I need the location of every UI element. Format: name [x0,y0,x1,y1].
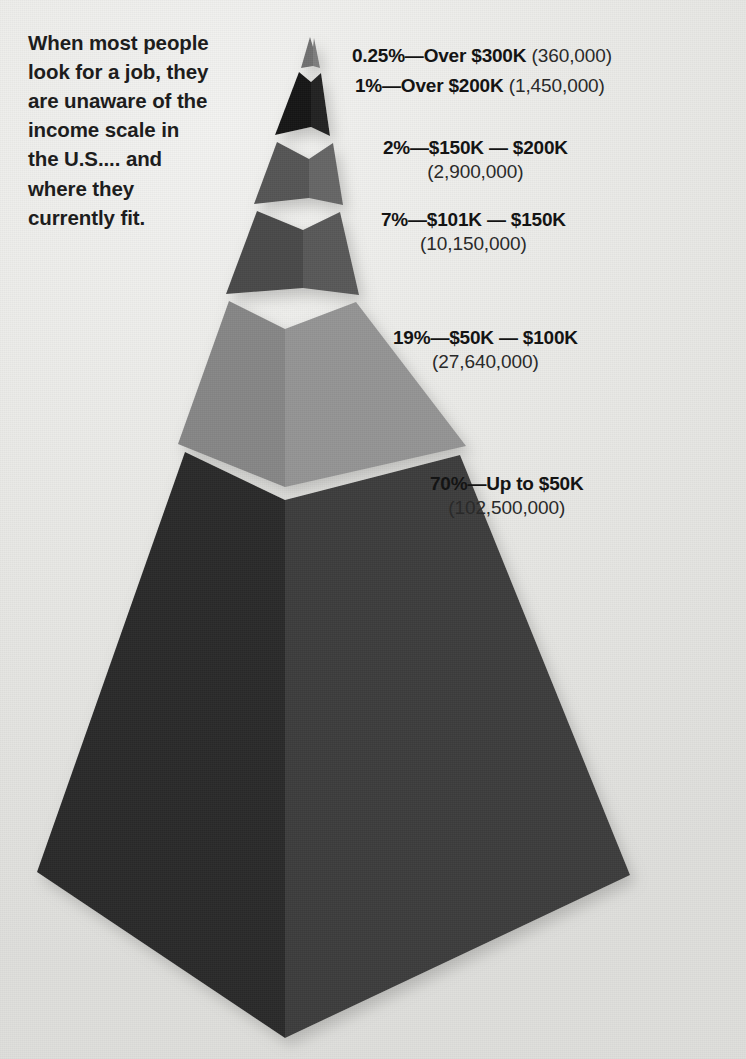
tier-label-over-200k-count: (1,450,000) [509,75,605,96]
pyramid-tier-025[interactable] [301,37,320,68]
pyramid-tier-2-face-right [309,143,343,205]
tier-label-50k-100k-lead: 19%—$50K — $100K [393,327,578,348]
pyramid-tier-025-face-right [313,38,320,68]
pyramid-tier-1[interactable] [275,72,330,136]
tier-label-101k-150k-count: (10,150,000) [381,232,566,255]
tier-label-50k-100k-count: (27,640,000) [393,350,578,373]
tier-label-up-to-50k-count: (102,500,000) [430,496,583,519]
tier-label-150k-200k-lead: 2%—$150K — $200K [383,137,568,158]
pyramid-tier-025-face-left [301,37,313,68]
tier-label-101k-150k-lead: 7%—$101K — $150K [381,209,566,230]
tier-label-up-to-50k-lead: 70%—Up to $50K [430,473,583,494]
tier-label-150k-200k-count: (2,900,000) [383,160,568,183]
tier-label-up-to-50k: 70%—Up to $50K (102,500,000) [430,472,583,519]
tier-label-150k-200k: 2%—$150K — $200K (2,900,000) [383,136,568,183]
tier-label-over-300k-count: (360,000) [532,45,612,66]
pyramid-tier-1-face-right [311,73,330,136]
pyramid-tier-70-face-left [37,452,285,1038]
tier-label-50k-100k: 19%—$50K — $100K (27,640,000) [393,326,578,373]
tier-label-over-200k-lead: 1%—Over $200K [355,75,503,96]
tier-label-over-300k: 0.25%—Over $300K (360,000) [352,44,612,67]
pyramid-tier-70-face-right [285,455,630,1038]
pyramid-tier-70[interactable] [37,452,630,1038]
tier-label-101k-150k: 7%—$101K — $150K (10,150,000) [381,208,566,255]
pyramid-tier-7-face-right [303,212,359,295]
tier-label-over-200k: 1%—Over $200K (1,450,000) [355,74,605,97]
tier-label-over-300k-lead: 0.25%—Over $300K [352,45,526,66]
pyramid-tier-1-face-left [275,72,311,135]
headline-text: When most people look for a job, they ar… [28,28,280,232]
